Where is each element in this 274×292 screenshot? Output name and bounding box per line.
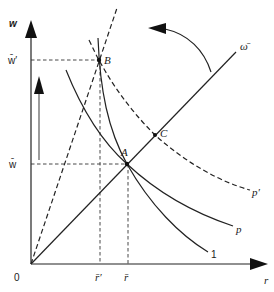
point-C: C [153,127,168,139]
curve-1-label: 1 [211,249,217,260]
y-axis-label: w [9,18,18,29]
wage-arrowhead-icon [34,76,44,94]
y-axis-arrow-icon [25,20,37,38]
x-axis [31,258,268,270]
x-tick-r-bar: r̄ [124,271,129,283]
curve-p-label: p [235,223,242,235]
x-axis-arrow-icon [250,258,268,270]
origin-label: 0 [14,272,20,283]
y-tick-w-bar-prime: w̄′ [7,54,17,66]
point-C-label: C [160,127,168,139]
point-A: A [120,146,129,166]
curve-p-prime-label: p′ [251,186,261,198]
wage-increase-arrow [34,76,44,160]
y-tick-w-bar: w̄ [8,158,17,170]
curve-1 [98,38,208,252]
guide-lines [31,60,128,264]
omega-bar-line [31,52,236,264]
y-axis [25,20,37,264]
x-tick-r-bar-prime: r̄′ [95,271,102,283]
rotation-arrow [148,23,211,72]
x-axis-label: r [264,274,269,286]
steep-dashed-ray [31,8,117,264]
rotation-arrowhead-icon [148,23,166,34]
point-B-label: B [104,54,111,66]
economics-diagram: w r 0 w̄′ w̄ r̄′ r̄ ω̄ 1 p p′ A B C [0,0,274,292]
point-A-label: A [120,146,128,158]
omega-bar-label: ω̄ [240,40,251,52]
